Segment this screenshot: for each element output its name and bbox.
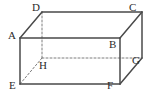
- vertex-label-f: F: [107, 80, 113, 91]
- cuboid-figure: ABCDEFGH: [0, 0, 146, 98]
- vertex-label-a: A: [8, 30, 16, 41]
- cuboid-edge-ad: [20, 12, 42, 38]
- cuboid-svg: [0, 0, 146, 98]
- vertex-label-e: E: [9, 80, 16, 91]
- vertex-label-h: H: [39, 60, 47, 71]
- solid-edge-group: [20, 12, 142, 84]
- vertex-label-c: C: [129, 2, 136, 13]
- hidden-edge-group: [20, 12, 142, 84]
- vertex-label-b: B: [109, 39, 116, 50]
- vertex-label-d: D: [32, 2, 40, 13]
- vertex-label-g: G: [132, 55, 140, 66]
- cuboid-edge-bc: [120, 12, 142, 38]
